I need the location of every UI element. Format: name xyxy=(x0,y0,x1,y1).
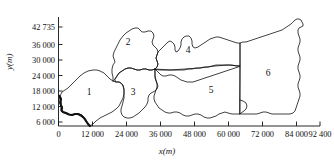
y-tick-label: 24 000 xyxy=(32,72,55,81)
y-tick-label: 18 000 xyxy=(32,87,55,96)
x-tick-label: 84 000 xyxy=(285,130,308,139)
y-tick-label: 6 000 xyxy=(36,118,55,127)
x-tick-label: 60 000 xyxy=(217,130,240,139)
x-tick-label: 24 000 xyxy=(115,130,138,139)
x-tick-label: 92 400 xyxy=(308,130,331,139)
y-tick-label: 36 000 xyxy=(32,41,55,50)
x-tick-label: 72 000 xyxy=(251,130,274,139)
x-axis-ticks xyxy=(59,122,321,127)
y-axis-label: y(m) xyxy=(2,56,16,90)
map-plot: 42 735 36 000 30 000 24 000 18 000 12 00… xyxy=(0,0,334,167)
y-tick-label: 12 000 xyxy=(32,103,55,112)
region-6-outline[interactable] xyxy=(240,19,303,114)
axis-spines xyxy=(59,17,321,126)
region-label-5: 5 xyxy=(209,85,214,95)
x-tick-label: 0 xyxy=(56,130,60,139)
region-label-3: 3 xyxy=(131,87,136,97)
y-tick-label: 30 000 xyxy=(32,56,55,65)
region-label-2: 2 xyxy=(126,37,131,47)
region-1-outline[interactable] xyxy=(59,70,124,126)
region-3-outline[interactable] xyxy=(115,68,158,118)
y-tick-label: 42 735 xyxy=(32,23,55,32)
x-tick-label: 48 000 xyxy=(183,130,206,139)
x-tick-label: 36 000 xyxy=(149,130,172,139)
region-label-1: 1 xyxy=(87,87,92,97)
region-5-6-south-notch xyxy=(240,100,247,114)
y-axis-tick-labels: 42 735 36 000 30 000 24 000 18 000 12 00… xyxy=(32,23,55,127)
figure-container: y(m) x(m) 42 735 36 000 30 000 24 000 18… xyxy=(0,0,334,167)
region-label-6: 6 xyxy=(266,68,271,78)
region-label-4: 4 xyxy=(186,45,191,55)
region-labels: 1 2 3 4 5 6 xyxy=(87,37,271,97)
region-1-highlighted-boundary xyxy=(60,96,91,126)
y-axis-label-text: y(m) xyxy=(2,56,16,70)
x-axis-label: x(m) xyxy=(0,146,334,156)
x-axis-tick-labels: 0 12 000 24 000 36 000 48 000 60 000 72 … xyxy=(56,130,331,139)
region-4-5-boundary xyxy=(155,65,240,70)
x-tick-label: 12 000 xyxy=(81,130,104,139)
region-5-outline[interactable] xyxy=(154,66,240,118)
